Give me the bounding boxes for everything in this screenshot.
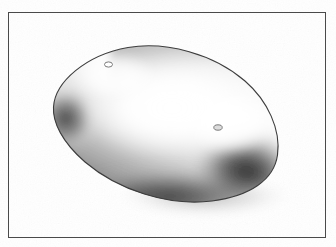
aperture-lower-right-icon bbox=[214, 125, 222, 130]
highlight-right-shoulder bbox=[187, 91, 275, 155]
figure-illustration bbox=[0, 0, 336, 247]
figure-canvas: Perspective drawing of an elongated ovoi… bbox=[0, 0, 336, 247]
aperture-upper-left-icon bbox=[105, 62, 113, 67]
